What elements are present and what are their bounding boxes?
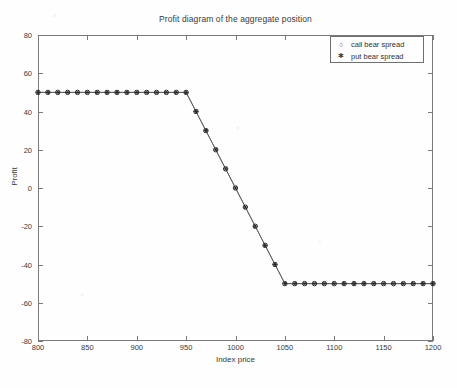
y-tick-20: [38, 150, 43, 151]
x-tick-1000: [236, 35, 237, 40]
x-tick-950: [186, 336, 187, 341]
y-tick-0: [38, 188, 43, 189]
y-tick--40: [38, 265, 43, 266]
x-tick-900: [137, 35, 138, 40]
chart-figure: Profit diagram of the aggregate position…: [0, 0, 457, 388]
x-tick-1100: [334, 336, 335, 341]
chart-title: Profit diagram of the aggregate position: [38, 14, 433, 24]
x-tick-850: [87, 35, 88, 40]
y-tick-label--80: -80: [6, 337, 32, 346]
y-tick--60: [38, 303, 43, 304]
y-tick-60: [428, 73, 433, 74]
data-series-layer: [38, 35, 433, 341]
x-tick-1050: [285, 336, 286, 341]
x-tick-850: [87, 336, 88, 341]
y-tick-40: [428, 112, 433, 113]
legend-label-call: call bear spread: [351, 40, 404, 49]
x-tick-label-1000: 1000: [227, 343, 244, 352]
x-tick-label-1100: 1100: [326, 343, 342, 352]
x-tick-1200: [433, 336, 434, 341]
y-tick-label-80: 80: [6, 31, 32, 40]
x-tick-label-1150: 1150: [376, 343, 392, 352]
y-tick-0: [428, 188, 433, 189]
x-tick-label-850: 850: [81, 343, 94, 352]
y-tick-20: [428, 150, 433, 151]
x-tick-1000: [236, 336, 237, 341]
y-tick--20: [38, 226, 43, 227]
x-tick-label-950: 950: [180, 343, 193, 352]
y-tick-label--20: -20: [6, 222, 32, 231]
y-tick--20: [428, 226, 433, 227]
y-tick--40: [428, 265, 433, 266]
y-tick--60: [428, 303, 433, 304]
x-tick-label-1200: 1200: [425, 343, 442, 352]
y-tick-60: [38, 73, 43, 74]
x-axis-label: Index price: [38, 355, 433, 364]
y-tick-label--60: -60: [6, 298, 32, 307]
y-tick-label-60: 60: [6, 69, 32, 78]
x-tick-label-1050: 1050: [277, 343, 294, 352]
x-tick-label-800: 800: [32, 343, 45, 352]
y-tick-80: [428, 35, 433, 36]
x-tick-label-900: 900: [130, 343, 143, 352]
x-tick-900: [137, 336, 138, 341]
chart-legend: ○ call bear spread ✱ put bear spread: [330, 36, 424, 63]
x-tick-1150: [384, 336, 385, 341]
y-tick--80: [38, 341, 43, 342]
y-tick-80: [38, 35, 43, 36]
x-tick-950: [186, 35, 187, 40]
y-tick-40: [38, 112, 43, 113]
legend-label-put: put bear spread: [351, 52, 404, 61]
x-tick-1050: [285, 35, 286, 40]
y-axis-label: Profit: [10, 147, 19, 207]
legend-entry-put: ✱ put bear spread: [331, 50, 423, 62]
x-tick-1200: [433, 35, 434, 40]
y-tick-label--40: -40: [6, 260, 32, 269]
circle-marker-icon: ○: [331, 41, 351, 48]
y-tick-label-40: 40: [6, 107, 32, 116]
legend-entry-call: ○ call bear spread: [331, 38, 423, 50]
y-tick--80: [428, 341, 433, 342]
asterisk-marker-icon: ✱: [331, 52, 351, 60]
